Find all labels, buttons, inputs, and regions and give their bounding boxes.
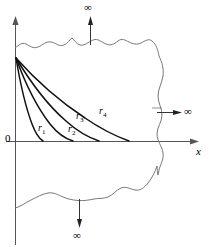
infinity-arrow-top-head: [88, 16, 93, 25]
curve-label-r3: r3: [76, 111, 83, 124]
infinity-arrow-right-head: [173, 110, 182, 115]
curve-label-r2: r2: [68, 124, 75, 137]
infinity-arrow-bottom: [77, 199, 82, 228]
x-axis: [6, 138, 199, 144]
y-axis-arrowhead: [12, 16, 18, 25]
x-axis-label: x: [196, 146, 201, 157]
boundary-wavy-bottom: [15, 166, 157, 208]
infinity-arrow-bottom-head: [77, 219, 82, 228]
y-axis: [12, 16, 18, 245]
infinity-label-right: ∞: [184, 106, 192, 117]
infinity-label-bottom: ∞: [73, 230, 81, 241]
diagram-svg: [0, 0, 211, 247]
figure-canvas: ∞ ∞ ∞ x 0 r1 r2 r3 r4: [0, 0, 211, 247]
boundary-wavy-top: [15, 38, 159, 56]
curve-label-r2-sub: 2: [72, 129, 76, 137]
boundary-wavy-right: [157, 56, 163, 175]
curve-label-r3-sub: 3: [80, 116, 84, 124]
curve-label-r4: r4: [99, 106, 106, 119]
infinity-label-top: ∞: [84, 2, 92, 13]
origin-label: 0: [5, 133, 11, 144]
x-axis-arrowhead: [190, 138, 199, 144]
curve-label-r1-sub: 1: [42, 128, 46, 136]
infinity-arrow-right: [152, 108, 182, 115]
curve-label-r1: r1: [38, 123, 45, 136]
curve-label-r4-sub: 4: [103, 111, 107, 119]
